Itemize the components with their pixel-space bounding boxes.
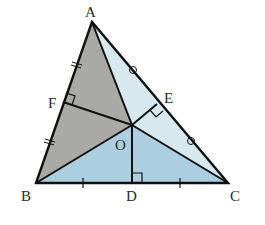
label-B: B [21, 188, 31, 204]
label-D: D [126, 188, 137, 204]
label-F: F [48, 95, 56, 111]
label-A: A [85, 4, 96, 20]
diagram-canvas: A B C D E F O [0, 0, 265, 225]
label-C: C [230, 188, 240, 204]
triangle-diagram: A B C D E F O [0, 0, 265, 225]
label-O: O [115, 137, 126, 153]
label-E: E [164, 90, 173, 106]
